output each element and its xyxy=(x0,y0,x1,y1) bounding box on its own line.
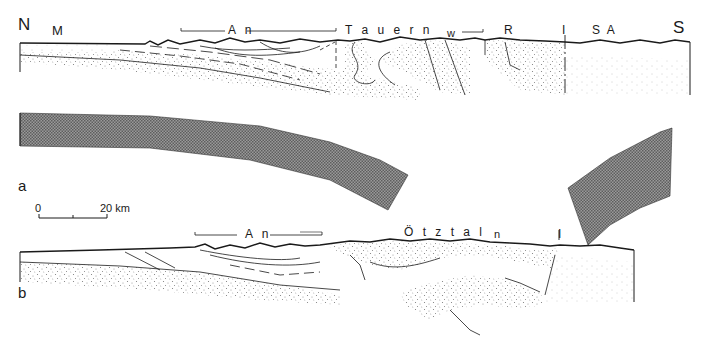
lithosphere-slab-a xyxy=(20,113,408,210)
tauern-dome-b xyxy=(400,275,545,320)
lithosphere-slab-south xyxy=(568,128,672,245)
r-block-a xyxy=(485,40,565,95)
insubric-label-a: I xyxy=(562,24,565,36)
panel-b-label: b xyxy=(18,285,26,300)
southern-alps-label: S A xyxy=(592,24,617,36)
panel-a-label: a xyxy=(18,178,26,193)
molasse-label: M xyxy=(52,24,63,37)
w-label: w xyxy=(447,28,455,39)
scale-end-label: 20 km xyxy=(100,203,130,214)
panel-b-section xyxy=(20,230,634,335)
tauern-label: T a u e r n xyxy=(345,24,432,36)
north-label: N xyxy=(18,16,30,33)
insubric-label-b: I xyxy=(558,228,561,240)
r-label: R xyxy=(504,24,513,36)
cross-section-figure xyxy=(0,0,708,342)
austroalpine-label-b: A n xyxy=(245,228,271,240)
southern-alps-a xyxy=(565,55,690,95)
scale-bar xyxy=(39,214,107,218)
southern-alps-b xyxy=(545,255,634,302)
austroalpine-label-a: A n xyxy=(228,24,254,36)
foreland-basement-b xyxy=(20,262,340,305)
otztal-label: Ö t z t a l xyxy=(404,226,485,238)
scale-zero-label: 0 xyxy=(35,203,41,214)
south-label: S xyxy=(673,19,684,36)
n-label: n xyxy=(494,229,500,240)
molasse-a xyxy=(20,44,110,52)
